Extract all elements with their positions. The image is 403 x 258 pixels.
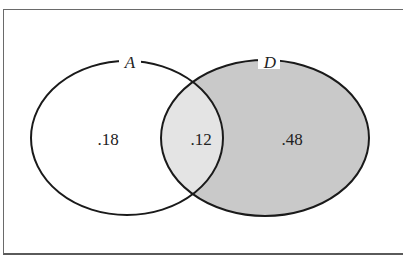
d-only-value: .48 [281,130,302,149]
set-d-label: D [263,53,277,72]
intersection-value: .12 [190,130,211,149]
a-only-value: .18 [97,130,118,149]
set-a-label: A [124,53,136,72]
